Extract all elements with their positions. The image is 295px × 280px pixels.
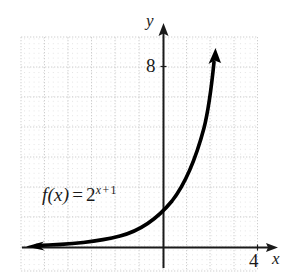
plot-canvas xyxy=(0,0,295,280)
y-axis-label: y xyxy=(146,12,154,29)
exponent-variable: x xyxy=(96,184,101,197)
function-argument: (x) xyxy=(47,184,69,205)
function-exponent: x + 1 xyxy=(96,184,117,197)
exponent-plus-sign: + xyxy=(102,184,109,197)
exponential-function-graph: y x 8 4 f(x)=2x + 1 xyxy=(0,0,295,280)
x-axis-tick-label-4: 4 xyxy=(249,251,259,270)
x-axis-label: x xyxy=(272,250,280,267)
function-base: 2 xyxy=(86,184,96,205)
exponent-constant: 1 xyxy=(110,184,116,197)
y-axis-tick-label-8: 8 xyxy=(146,56,156,75)
function-equation-label: f(x)=2x + 1 xyxy=(42,185,117,204)
equals-sign: = xyxy=(72,184,83,205)
